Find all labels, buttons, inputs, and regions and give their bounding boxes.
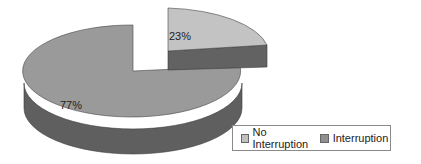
legend-swatch-icon [320, 134, 329, 143]
legend-swatch-icon [241, 134, 249, 143]
legend-label: No Interruption [253, 126, 310, 150]
legend-item-no-interruption: No Interruption [241, 126, 310, 150]
legend-item-interruption: Interruption [320, 132, 389, 144]
label-77: 77% [60, 99, 82, 111]
legend-label: Interruption [333, 132, 389, 144]
label-23: 23% [169, 30, 191, 42]
legend: No Interruption Interruption [232, 125, 391, 151]
